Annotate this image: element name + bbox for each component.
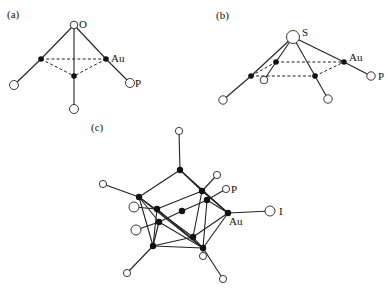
- panel-a-label: (a): [7, 8, 20, 21]
- gold-atom: [38, 56, 44, 62]
- panel-c-label: (c): [91, 121, 104, 134]
- gold-atom: [136, 194, 142, 200]
- gold-atom: [199, 188, 205, 194]
- phosphorus-atom: [131, 225, 141, 235]
- phosphorus-atom: [324, 95, 332, 103]
- cluster-structures-figure: (a) O Au P (b): [0, 0, 390, 291]
- phosphorus-atom: [367, 72, 375, 80]
- phosphorus-atom: [99, 180, 106, 187]
- atom-label-au: Au: [229, 215, 243, 227]
- phosphorus-atom: [10, 81, 19, 90]
- phosphorus-atom: [175, 127, 182, 134]
- atom-label-au: Au: [349, 51, 363, 63]
- atom-label-p: P: [231, 183, 237, 195]
- iodine-atom: [265, 206, 275, 216]
- sulfur-atom: [287, 31, 300, 44]
- phosphorus-atom: [213, 171, 220, 178]
- gold-atom: [179, 208, 185, 214]
- gold-atom: [312, 73, 318, 79]
- gold-atom: [103, 56, 109, 62]
- gold-atom: [177, 167, 183, 173]
- atom-label-s: S: [302, 26, 308, 38]
- gold-atom: [204, 197, 210, 203]
- phosphorus-atom: [199, 252, 206, 259]
- gold-atom: [248, 73, 254, 79]
- phosphorus-atom: [260, 76, 268, 84]
- panel-a: (a) O Au P: [7, 8, 141, 114]
- atom-label-p: P: [378, 70, 384, 82]
- phosphorus-atom: [219, 275, 226, 282]
- panel-b-label: (b): [216, 9, 229, 22]
- gold-atom: [154, 206, 160, 212]
- atom-label-p: P: [135, 77, 141, 89]
- phosphorus-atom: [219, 96, 227, 104]
- gold-atom: [150, 243, 156, 249]
- phosphorus-atom: [70, 105, 79, 114]
- gold-atom: [200, 245, 206, 251]
- oxygen-atom: [70, 21, 78, 29]
- phosphorus-atom: [123, 269, 130, 276]
- gold-atom: [273, 59, 279, 65]
- phosphorus-atom: [129, 202, 139, 212]
- atom-label-au: Au: [111, 52, 125, 64]
- gold-atom: [190, 234, 196, 240]
- gold-atom: [156, 219, 162, 225]
- panel-c: (c): [91, 121, 283, 283]
- phosphorus-atom: [126, 79, 135, 88]
- atom-label-i: I: [279, 205, 283, 217]
- atom-label-o: O: [79, 18, 87, 30]
- gold-atom: [71, 73, 77, 79]
- phosphorus-atom: [222, 185, 229, 192]
- gold-atom: [341, 59, 347, 65]
- panel-b: (b) S Au P: [216, 9, 384, 104]
